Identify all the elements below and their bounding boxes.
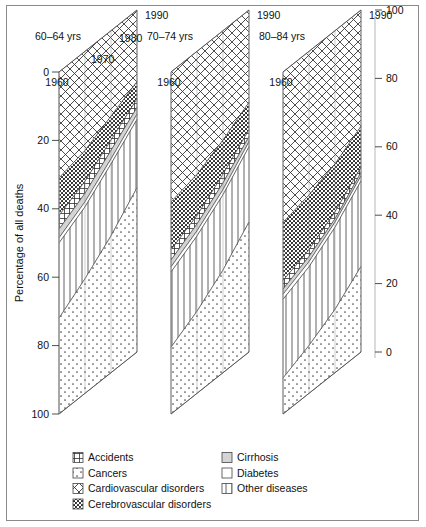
panel-title-3: 80–84 yrs (259, 30, 305, 42)
legend-label: Cerebrovascular disorders (88, 498, 211, 510)
legend-label: Other diseases (237, 482, 308, 494)
panel-3 (283, 10, 361, 414)
legend-item-diabetes[interactable]: Diabetes (222, 467, 278, 479)
panel-2 (171, 10, 249, 414)
legend-item-accidents[interactable]: Accidents (73, 451, 134, 463)
swatch-cirrhosis-icon (222, 453, 232, 463)
y-axis-left: 020406080100 Percentage of all deaths (13, 66, 59, 420)
legend-label: Cancers (88, 467, 127, 479)
year-label-1970: 1970 (91, 53, 115, 65)
chart-legend: AccidentsCancersCardiovascular disorders… (73, 451, 308, 510)
year-label-1960: 1960 (157, 76, 181, 88)
y-tick-label-right: 80 (386, 72, 398, 84)
y-tick-label-right: 0 (386, 346, 392, 358)
legend-label: Diabetes (237, 467, 278, 479)
year-label-1990: 1990 (145, 9, 169, 21)
swatch-diabetes-icon (222, 468, 232, 478)
y-tick-label-left: 20 (37, 134, 49, 146)
figure-frame: 020406080100 Percentage of all deaths 10… (6, 5, 419, 521)
plot-layer (59, 10, 361, 414)
chart-canvas: 020406080100 Percentage of all deaths 10… (7, 6, 418, 520)
legend-item-cardiovascular-disorders[interactable]: Cardiovascular disorders (73, 482, 204, 494)
y-axis-right: 100806040200 (375, 6, 404, 358)
panel-titles: 60–64 yrs70–74 yrs80–84 yrs (35, 30, 305, 42)
y-tick-label-left: 60 (37, 271, 49, 283)
legend-item-cirrhosis[interactable]: Cirrhosis (222, 451, 278, 463)
y-tick-label-left: 40 (37, 202, 49, 214)
legend-label: Cardiovascular disorders (88, 482, 204, 494)
y-axis-right-ticks: 100806040200 (375, 6, 404, 358)
year-label-1960: 1960 (269, 76, 293, 88)
y-tick-label-right: 40 (386, 209, 398, 221)
swatch-cardiovascular-icon (73, 484, 83, 494)
y-tick-label-left: 80 (37, 339, 49, 351)
legend-item-cancers[interactable]: Cancers (73, 467, 127, 479)
legend-item-cerebrovascular-disorders[interactable]: Cerebrovascular disorders (73, 498, 211, 510)
swatch-cerebrovascular-icon (73, 499, 83, 509)
legend-item-other-diseases[interactable]: Other diseases (222, 482, 308, 494)
year-label-1990: 1990 (369, 9, 393, 21)
y-tick-label-left: 100 (31, 408, 49, 420)
panel-title-2: 70–74 yrs (147, 30, 193, 42)
swatch-other-icon (222, 484, 232, 494)
panel-title-1: 60–64 yrs (35, 30, 81, 42)
year-label-1990: 1990 (257, 9, 281, 21)
y-axis-title: Percentage of all deaths (13, 183, 25, 302)
y-axis-left-ticks: 020406080100 (31, 66, 59, 420)
year-label-1960: 1960 (45, 76, 69, 88)
panel-1 (59, 10, 137, 414)
y-tick-label-right: 60 (386, 140, 398, 152)
swatch-accidents-icon (73, 453, 83, 463)
legend-label: Cirrhosis (237, 451, 278, 463)
y-tick-label-right: 20 (386, 277, 398, 289)
legend-label: Accidents (88, 451, 134, 463)
swatch-cancers-icon (73, 468, 83, 478)
year-label-1980: 1980 (119, 32, 143, 44)
